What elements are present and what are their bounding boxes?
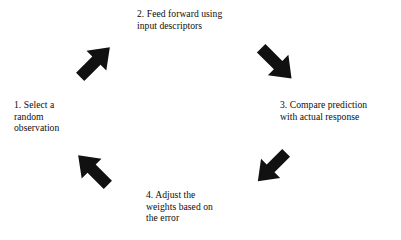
arrow-up-right-icon (72, 41, 118, 83)
cycle-diagram: 2. Feed forward using input descriptors … (0, 0, 401, 240)
arrow-up-left-icon (70, 147, 116, 193)
step-1-label: 1. Select a random observation (14, 99, 109, 134)
step-2-label: 2. Feed forward using input descriptors (137, 8, 262, 31)
arrow-down-left-icon (250, 145, 294, 189)
step-3-label: 3. Compare prediction with actual respon… (280, 99, 398, 122)
step-4-label: 4. Adjust the weights based on the error (146, 189, 251, 224)
arrow-down-right-icon (252, 39, 300, 87)
